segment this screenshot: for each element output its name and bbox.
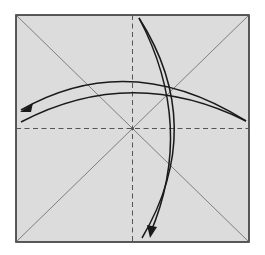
origami-diagram — [0, 0, 265, 255]
diagram-canvas — [0, 0, 265, 255]
center-point — [131, 127, 134, 130]
